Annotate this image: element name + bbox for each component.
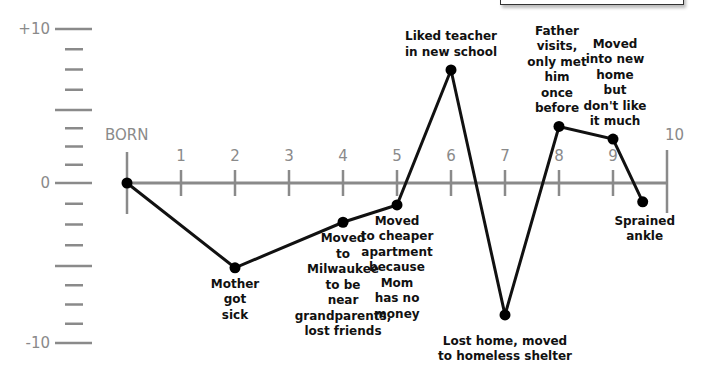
event-label: Mothergotsick <box>211 277 260 322</box>
event-label-line: Moved <box>321 231 366 245</box>
event-label-line: Father <box>535 24 579 38</box>
event-label-line: home <box>596 68 633 82</box>
event-label-line: Lost home, moved <box>443 334 567 348</box>
event-label-line: only met <box>527 55 587 69</box>
event-label-line: him <box>544 70 569 84</box>
event-label-line: to <box>336 247 350 261</box>
event-label-line: has no <box>375 291 420 305</box>
event-label-line: ankle <box>626 229 663 243</box>
event-point <box>554 121 565 132</box>
event-label-line: near <box>328 293 359 307</box>
event-label-line: because <box>369 260 425 274</box>
event-label: Movedto cheaperapartmentbecauseMomhas no… <box>361 214 434 321</box>
event-label-line: to be <box>326 278 361 292</box>
life-timeline-chart: +100-10 BORN12345678910 MothergotsickMov… <box>0 0 702 379</box>
event-label: Fathervisits,only methimoncebefore <box>527 24 587 116</box>
x-tick-label: 5 <box>392 147 402 165</box>
event-label-line: got <box>224 292 247 306</box>
event-label-line: sick <box>222 308 249 322</box>
x-tick-label-born: BORN <box>105 126 148 144</box>
x-tick-label: 2 <box>230 147 240 165</box>
y-tick-label: +10 <box>18 20 50 38</box>
event-point <box>392 199 403 210</box>
event-labels: MothergotsickMovedtoMilwaukeeto beneargr… <box>211 24 675 363</box>
event-label-line: Mother <box>211 277 260 291</box>
event-label-line: lost friends <box>304 324 381 338</box>
event-label-line: to cheaper <box>361 229 434 243</box>
y-axis: +100-10 <box>18 20 92 352</box>
x-tick-label: 3 <box>284 147 294 165</box>
event-label-line: but <box>604 83 627 97</box>
event-point <box>500 309 511 320</box>
x-tick-label: 9 <box>608 147 618 165</box>
event-label-line: once <box>541 86 573 100</box>
event-label-line: to homeless shelter <box>438 349 572 363</box>
event-label: Lost home, movedto homeless shelter <box>438 334 572 364</box>
event-label-line: in new school <box>405 45 497 59</box>
event-point <box>338 217 349 228</box>
event-point <box>122 178 133 189</box>
event-point <box>608 134 619 145</box>
x-tick-label: 4 <box>338 147 348 165</box>
x-tick-label: 1 <box>176 147 186 165</box>
y-tick-label: 0 <box>40 174 50 192</box>
x-tick-label: 6 <box>446 147 456 165</box>
event-label-line: into new <box>586 52 645 66</box>
event-label-line: Sprained <box>614 214 675 228</box>
event-label-line: visits, <box>537 39 578 53</box>
event-label-line: before <box>535 101 579 115</box>
event-label: Sprainedankle <box>614 214 675 244</box>
x-tick-label: 10 <box>665 126 684 144</box>
x-tick-label: 8 <box>554 147 564 165</box>
event-label-line: Mom <box>381 276 414 290</box>
event-point <box>446 64 457 75</box>
event-label-line: it much <box>590 114 641 128</box>
event-label-line: Moved <box>375 214 420 228</box>
event-label-line: Moved <box>593 37 638 51</box>
event-label-line: money <box>374 307 419 321</box>
event-label: Movedinto newhomebutdon't likeit much <box>584 37 647 129</box>
event-label-line: don't like <box>584 99 647 113</box>
event-label: Liked teacherin new school <box>405 29 497 59</box>
event-point <box>230 262 241 273</box>
event-point <box>637 196 648 207</box>
x-tick-label: 7 <box>500 147 510 165</box>
event-label-line: apartment <box>361 245 433 259</box>
event-label-line: Liked teacher <box>405 29 497 43</box>
y-tick-label: -10 <box>26 334 51 352</box>
